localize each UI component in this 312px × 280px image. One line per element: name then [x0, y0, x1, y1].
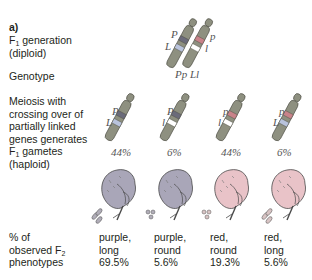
flower-purple-round: [146, 170, 193, 220]
f1-generation-label: F1 generation (diploid): [9, 34, 72, 59]
gamete-1-bottom-allele: L: [106, 116, 112, 128]
gamete-1-percent: 44%: [111, 146, 131, 158]
gamete-4-bottom-allele: L: [273, 116, 279, 128]
f2-flowers: [88, 166, 312, 228]
phenotype-4-percent: 5.6%: [264, 256, 288, 269]
gamete-3-bottom-allele: l: [218, 116, 221, 128]
phenotype-1-shape: long: [99, 244, 131, 257]
flower-purple-long: [91, 170, 136, 225]
phenotypes-observed: observed F: [9, 244, 62, 256]
flower-red-round: [202, 170, 249, 220]
flower-red-long: [261, 170, 306, 225]
phenotypes-line-1: % of: [9, 231, 65, 244]
phenotype-2-shape: round: [154, 244, 186, 257]
allele-P: P: [171, 28, 178, 40]
phenotype-3-percent: 19.3%: [210, 256, 240, 269]
phenotypes-line-3: phenotypes: [9, 256, 65, 269]
meiosis-line-3: partially linked: [9, 120, 87, 133]
f1-line2: (diploid): [9, 47, 72, 60]
meiosis-line-6: (haploid): [9, 158, 87, 171]
gamete-2-bottom-allele: l: [162, 116, 165, 128]
panel-label: a): [9, 21, 18, 33]
allele-p: p: [210, 30, 216, 42]
phenotypes-label: % of observed F2 phenotypes: [9, 231, 65, 269]
allele-l: l: [205, 42, 208, 54]
gamete-4-top-allele: p: [279, 105, 285, 117]
phenotype-2-percent: 5.6%: [154, 256, 186, 269]
meiosis-gametes: gametes: [19, 145, 62, 157]
phenotype-4-color: red,: [264, 231, 288, 244]
phenotype-2-color: purple,: [154, 231, 186, 244]
gamete-4-percent: 6%: [277, 146, 292, 158]
genotype-label: Genotype: [9, 70, 55, 83]
phenotype-3-color: red,: [210, 231, 240, 244]
meiosis-label: Meiosis with crossing over of partially …: [9, 95, 87, 170]
gamete-chromosomes: [100, 90, 312, 146]
genotype-value: Pp Ll: [175, 68, 199, 80]
phenotype-column-4: red, long 5.6%: [264, 231, 288, 269]
gamete-3-percent: 44%: [221, 146, 241, 158]
phenotype-1-percent: 69.5%: [99, 256, 131, 269]
meiosis-line-1: Meiosis with: [9, 95, 87, 108]
gamete-3-top-allele: p: [223, 105, 229, 117]
gamete-2-percent: 6%: [167, 146, 182, 158]
gamete-2-top-allele: P: [167, 105, 174, 117]
phenotype-4-shape: long: [264, 244, 288, 257]
f1-rest: generation: [19, 34, 72, 46]
allele-L: L: [165, 40, 171, 52]
phenotype-column-1: purple, long 69.5%: [99, 231, 131, 269]
phenotype-column-3: red, round 19.3%: [210, 231, 240, 269]
phenotype-3-shape: round: [210, 244, 240, 257]
phenotype-1-color: purple,: [99, 231, 131, 244]
phenotype-column-2: purple, round 5.6%: [154, 231, 186, 269]
meiosis-line-2: crossing over of: [9, 108, 87, 121]
meiosis-line-4: genes generates: [9, 133, 87, 146]
gamete-1-top-allele: P: [112, 105, 119, 117]
